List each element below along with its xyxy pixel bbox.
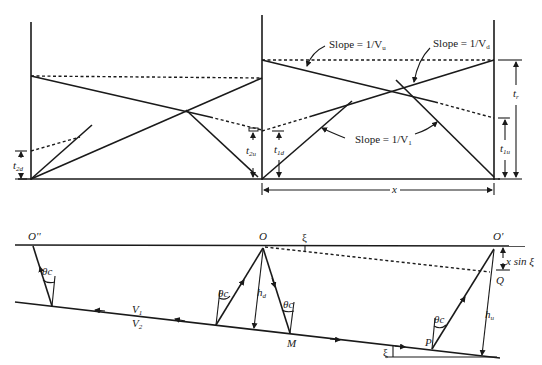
theta-c-label-M: θc [283, 298, 293, 310]
t1u-label: t1u [500, 142, 511, 156]
dipping-interface [15, 302, 500, 358]
theta-c-label-left: θc [42, 265, 52, 277]
reciprocal-time-line-left [31, 76, 262, 78]
t1d-label: t1d [274, 143, 285, 157]
t2u-label: t2u [246, 144, 257, 158]
direct-wave-reverse-right [396, 80, 494, 177]
V2-label: V2 [132, 317, 143, 331]
slope-v1-label: Slope = 1/V1 [355, 133, 412, 147]
Q-label: Q [496, 274, 504, 286]
hd-label: hd [257, 286, 267, 300]
theta-c-label-P: θc [434, 313, 444, 325]
O-prime-label: O' [493, 230, 504, 242]
xi-bottom-label: ξ [383, 346, 388, 359]
V1-label: V1 [132, 303, 142, 317]
updip-intercept-ext-left [31, 137, 80, 151]
ground-surface [15, 245, 525, 246]
O-label: O [259, 230, 267, 242]
slope-vu-label: Slope = 1/Vu [329, 38, 386, 52]
hu-label: hu [485, 308, 495, 322]
direct-wave-right [262, 101, 352, 179]
ray-O-to-M [263, 248, 290, 333]
O-double-prime-label: O'' [28, 230, 41, 242]
downdip-intercept-ext-right [262, 116, 312, 131]
x-sin-xi-label: x sin ξ [505, 255, 534, 268]
updip-headwave-right [262, 60, 435, 102]
t2d-label: t2d [13, 159, 24, 173]
P-label: P [424, 336, 432, 348]
slope-vd-label: Slope = 1/Vd [433, 37, 490, 51]
updip-headwave-ext-right [435, 102, 494, 118]
updip-curve-left [31, 78, 262, 179]
travel-time-panel: t2d t2u t1d t1u tr x [13, 15, 522, 195]
M-label: M [286, 337, 297, 349]
parallel-to-interface [265, 247, 490, 272]
direct-wave-left [31, 125, 92, 179]
xi-top-label: ξ [302, 231, 307, 244]
tr-label: tr [513, 87, 519, 101]
downdip-headwave-left [31, 76, 210, 117]
refraction-diagram: t2d t2u t1d t1u tr x [0, 0, 542, 365]
x-distance-label: x [391, 183, 397, 195]
ray-geometry-panel: O'' O O' ξ x sin ξ Q M P ξ hd hu V1 V2 θ… [15, 230, 534, 359]
theta-c-label-mid: θc [218, 287, 228, 299]
